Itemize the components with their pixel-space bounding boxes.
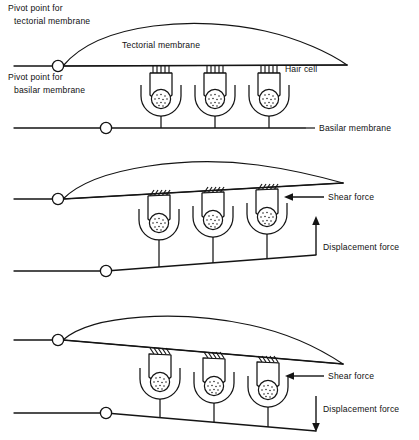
hair-cell xyxy=(139,190,179,267)
pivot-point-tectorial-membrane xyxy=(52,193,63,204)
nucleus xyxy=(205,89,224,108)
label-displacement-force: Displacement force xyxy=(323,242,399,252)
panel-upward-displacement: Shear force Displacement force xyxy=(14,162,399,277)
hair-cell xyxy=(141,66,181,128)
hair-cell xyxy=(247,184,287,259)
nucleus xyxy=(149,213,168,232)
nucleus xyxy=(259,89,278,108)
cilium xyxy=(204,187,208,193)
pivot-point-tectorial-membrane xyxy=(52,60,63,71)
cilia-tuft xyxy=(258,66,280,73)
label-pivot-tectorial-line2: tectorial membrane xyxy=(14,16,90,26)
tectorial-membrane-shape xyxy=(63,316,343,364)
hair-cell xyxy=(194,352,234,422)
cilium xyxy=(150,348,154,354)
tectorial-membrane-upper-arc xyxy=(63,23,347,66)
panel-downward-displacement: Shear force Displacement force xyxy=(14,316,399,432)
label-pivot-tectorial: Pivot point for xyxy=(8,3,63,13)
basilar-membrane-line xyxy=(14,255,316,271)
label-basilar-membrane: Basilar membrane xyxy=(319,123,391,133)
cilia-tuft xyxy=(204,66,226,73)
cilium xyxy=(270,356,274,362)
basilar-membrane-line xyxy=(14,413,316,431)
shear-force-arrow xyxy=(284,193,324,201)
label-shear-force: Shear force xyxy=(328,371,374,381)
tectorial-baseline xyxy=(14,340,343,364)
displacement-force-arrow xyxy=(312,396,320,432)
cilium xyxy=(220,352,224,358)
panel-resting-state: Pivot point for tectorial membrane Pivot… xyxy=(8,3,391,134)
cilium xyxy=(258,184,262,190)
cilium xyxy=(266,356,270,362)
nucleus xyxy=(204,376,223,395)
tectorial-membrane-shape xyxy=(63,23,347,66)
tectorial-membrane-upper-arc xyxy=(63,316,343,364)
pivot-point-tectorial-membrane xyxy=(52,334,63,345)
hair-cell xyxy=(248,356,288,427)
label-tectorial-membrane: Tectorial membrane xyxy=(122,40,200,50)
diagram-canvas: Pivot point for tectorial membrane Pivot… xyxy=(0,0,419,440)
hair-cell xyxy=(140,348,180,417)
hair-cell xyxy=(249,66,289,128)
nucleus xyxy=(258,380,277,399)
label-shear-force: Shear force xyxy=(328,192,374,202)
cilium xyxy=(150,190,154,196)
cilia-tuft xyxy=(150,66,172,73)
hair-cell-shear-diagram: Pivot point for tectorial membrane Pivot… xyxy=(0,0,419,440)
nucleus xyxy=(203,210,222,229)
nucleus xyxy=(257,207,276,226)
pivot-point-basilar-membrane xyxy=(100,122,111,133)
hair-cell xyxy=(193,187,233,263)
nucleus xyxy=(151,89,170,108)
cilium xyxy=(154,348,158,354)
pivot-point-basilar-membrane xyxy=(100,265,111,276)
pivot-point-basilar-membrane xyxy=(100,407,111,418)
label-hair-cell: Hair cell xyxy=(285,64,317,74)
label-pivot-basilar: Pivot point for xyxy=(8,72,63,82)
shear-force-arrow xyxy=(285,372,324,380)
hair-cell xyxy=(195,66,235,128)
displacement-force-arrow xyxy=(312,216,320,255)
nucleus xyxy=(150,372,169,391)
label-displacement-force: Displacement force xyxy=(323,404,399,414)
label-pivot-basilar-line2: basilar membrane xyxy=(14,85,85,95)
